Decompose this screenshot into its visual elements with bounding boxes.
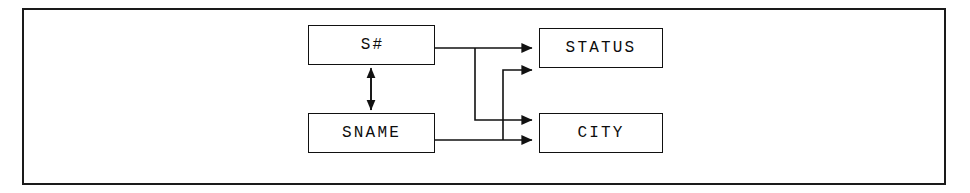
diagram-connectors: [0, 0, 970, 193]
diagram-canvas: S# STATUS SNAME CITY: [0, 0, 970, 193]
node-box-sname[interactable]: SNAME: [308, 113, 435, 153]
node-box-city[interactable]: CITY: [539, 113, 663, 153]
node-box-s-number[interactable]: S#: [308, 25, 435, 65]
node-box-status[interactable]: STATUS: [539, 28, 663, 68]
edge-sname-to-status: [503, 70, 532, 140]
